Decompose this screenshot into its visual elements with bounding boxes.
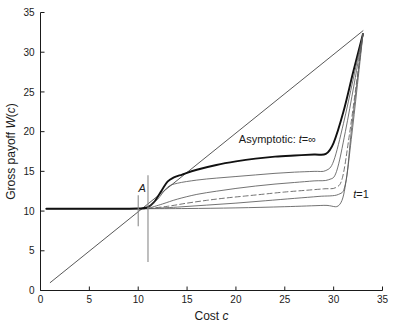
y-tick-label: 0 bbox=[29, 285, 35, 296]
chart-plot-area: 0510152025303505101520253035Cost cGross … bbox=[0, 0, 397, 323]
x-tick-label: 25 bbox=[279, 294, 291, 305]
y-tick-label: 5 bbox=[29, 245, 35, 256]
y-tick-label: 25 bbox=[23, 87, 35, 98]
y-tick-label: 35 bbox=[23, 7, 35, 18]
series-asymptotic-t-infinity bbox=[46, 34, 363, 209]
x-tick-label: 5 bbox=[87, 294, 93, 305]
y-tick-label: 10 bbox=[23, 206, 35, 217]
y-tick-label: 20 bbox=[23, 126, 35, 137]
chart-figure: 0510152025303505101520253035Cost cGross … bbox=[0, 0, 397, 323]
asymptotic-label: Asymptotic: t=∞ bbox=[239, 133, 316, 145]
y-tick-label: 15 bbox=[23, 166, 35, 177]
x-tick-label: 35 bbox=[377, 294, 389, 305]
x-tick-label: 15 bbox=[182, 294, 194, 305]
series-t-curve-upper bbox=[148, 34, 363, 208]
point-a-label: A bbox=[137, 182, 145, 194]
x-tick-label: 30 bbox=[328, 294, 340, 305]
t1-label: t=1 bbox=[353, 188, 369, 200]
x-tick-label: 0 bbox=[38, 294, 44, 305]
y-tick-label: 30 bbox=[23, 47, 35, 58]
x-tick-label: 20 bbox=[230, 294, 242, 305]
series-diagonal-reference bbox=[50, 31, 363, 283]
x-tick-label: 10 bbox=[133, 294, 145, 305]
y-axis-title: Gross payoff W(c) bbox=[4, 103, 18, 199]
x-axis-title: Cost c bbox=[194, 309, 228, 323]
